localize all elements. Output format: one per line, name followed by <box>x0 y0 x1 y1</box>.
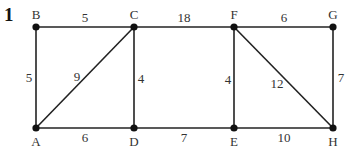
edge-weight-ba: 5 <box>26 70 33 85</box>
edge-a-c <box>36 27 134 128</box>
weighted-graph-diagram: 1 518659441276710 ABCDEFGH <box>0 0 348 152</box>
node-h <box>329 124 336 131</box>
node-label-g: G <box>328 7 337 22</box>
question-number: 1 <box>4 4 14 25</box>
edge-f-h <box>234 27 333 128</box>
node-d <box>130 124 137 131</box>
node-label-f: F <box>230 7 237 22</box>
node-label-b: B <box>32 7 41 22</box>
node-b <box>32 23 39 30</box>
edge-weight-bc: 5 <box>82 10 89 25</box>
edge-weight-ac: 9 <box>74 69 81 84</box>
node-label-c: C <box>130 7 139 22</box>
node-label-d: D <box>129 134 138 149</box>
node-e <box>230 124 237 131</box>
node-label-a: A <box>31 134 41 149</box>
graph-edges <box>36 27 333 128</box>
node-a <box>32 124 39 131</box>
edge-weight-fe: 4 <box>225 72 232 87</box>
node-f <box>230 23 237 30</box>
edge-weight-labels: 518659441276710 <box>26 10 345 145</box>
edge-weight-cd: 4 <box>138 71 145 86</box>
edge-weight-cf: 18 <box>178 10 191 25</box>
edge-weight-gh: 7 <box>338 70 345 85</box>
edge-weight-fh: 12 <box>271 76 284 91</box>
node-label-e: E <box>230 134 238 149</box>
node-label-h: H <box>328 134 337 149</box>
edge-weight-ad: 6 <box>82 130 89 145</box>
edge-weight-eh: 10 <box>278 130 291 145</box>
node-c <box>130 23 137 30</box>
edge-weight-fg: 6 <box>281 10 288 25</box>
node-g <box>329 23 336 30</box>
edge-weight-de: 7 <box>181 130 188 145</box>
